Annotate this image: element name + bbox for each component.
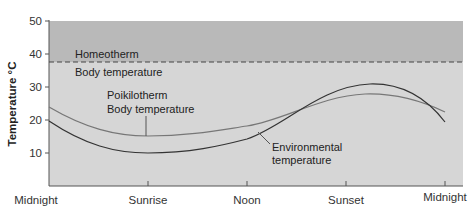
- x-tick-sunrise: Sunrise: [129, 194, 168, 206]
- y-axis-label: Temperature °C: [6, 62, 18, 147]
- poikilotherm-label: Poikilotherm: [107, 89, 168, 101]
- x-tick-midnight-start: Midnight: [14, 194, 58, 206]
- y-tick-10: 10: [29, 147, 42, 159]
- x-tick-midnight-end: Midnight: [423, 191, 467, 203]
- homeotherm-label: Homeotherm: [75, 48, 139, 60]
- poikilotherm-body-temp-label: Body temperature: [107, 103, 194, 115]
- homeotherm-body-temp-label: Body temperature: [75, 66, 162, 78]
- y-tick-30: 30: [29, 81, 42, 93]
- y-ticks: [45, 21, 49, 153]
- temperature-chart: 50 40 30 20 10 Midnight Sunrise Noon Sun…: [0, 0, 473, 211]
- y-tick-50: 50: [29, 15, 42, 27]
- environmental-label: Environmental: [272, 141, 342, 153]
- x-tick-noon: Noon: [233, 194, 261, 206]
- y-tick-20: 20: [29, 114, 42, 126]
- x-tick-sunset: Sunset: [328, 194, 365, 206]
- y-tick-40: 40: [29, 48, 42, 60]
- environmental-temp-label: temperature: [272, 154, 331, 166]
